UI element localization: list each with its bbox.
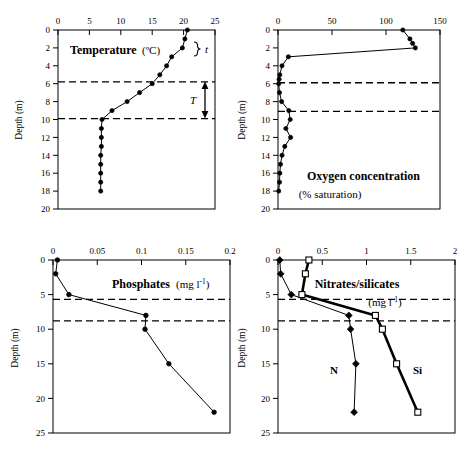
data-point xyxy=(288,117,292,121)
x-tick-label: 5 xyxy=(87,16,92,26)
x-axis-ticks xyxy=(278,30,440,35)
y-axis-title: Depth (m) xyxy=(237,328,248,367)
y-axis-tick-labels: 0 2 4 6 8 10 12 14 16 18 20 xyxy=(41,25,51,214)
y-tick-label: 12 xyxy=(261,133,270,143)
x-axis-tick-labels: 0 0.5 1 1.5 2 xyxy=(276,246,458,256)
y-tick-label: 14 xyxy=(41,151,51,161)
x-tick-label: 0 xyxy=(56,16,61,26)
y-tick-label: 8 xyxy=(46,97,51,107)
x-tick-label: 1.5 xyxy=(405,246,417,256)
data-point xyxy=(277,91,281,95)
oxygen-curve xyxy=(279,30,416,191)
data-point xyxy=(99,126,103,130)
data-point xyxy=(180,46,184,50)
y-axis-ticks xyxy=(273,260,278,433)
y-tick-label: 10 xyxy=(261,324,271,334)
data-point xyxy=(284,126,288,130)
x-tick-label: 0.05 xyxy=(89,246,105,256)
panel-title: Oxygen concentration xyxy=(307,169,420,183)
y-axis-tick-labels: 0 2 4 6 8 10 12 14 16 18 20 xyxy=(261,25,271,214)
data-point xyxy=(276,257,283,264)
panel-units: (mg l-1) xyxy=(368,295,402,310)
data-point xyxy=(394,361,400,367)
x-axis-ticks xyxy=(278,260,455,265)
data-point xyxy=(277,189,281,193)
y-tick-label: 0 xyxy=(266,255,271,265)
x-tick-label: 0.1 xyxy=(136,246,147,256)
data-point xyxy=(55,258,60,263)
data-point xyxy=(170,55,174,59)
data-point xyxy=(99,162,103,166)
x-axis-tick-labels: 0 50 100 150 xyxy=(276,16,448,26)
panel-units: (mg l-1) xyxy=(176,277,210,292)
data-point xyxy=(99,171,103,175)
data-point xyxy=(212,410,217,415)
panel-title: Temperature xyxy=(70,43,137,57)
phosphates-chart: 0 0.05 0.1 0.15 0.2 0 5 10 15 20 25 xyxy=(0,226,235,451)
data-point xyxy=(278,171,282,175)
data-point xyxy=(302,271,308,277)
y-axis-tick-labels: 0 5 10 15 20 25 xyxy=(36,255,46,438)
data-point xyxy=(53,272,58,277)
y-tick-label: 14 xyxy=(261,151,271,161)
panel-nitrates-silicates: 0 0.5 1 1.5 2 0 5 10 15 20 25 xyxy=(235,226,470,451)
data-point xyxy=(372,312,378,318)
data-point xyxy=(280,153,284,157)
data-point xyxy=(413,46,417,50)
oxygen-chart: 0 50 100 150 0 2 4 xyxy=(235,0,470,226)
y-tick-label: 10 xyxy=(41,115,51,125)
data-point xyxy=(287,109,291,113)
x-tick-label: 0 xyxy=(276,246,281,256)
y-tick-label: 16 xyxy=(261,168,271,178)
x-axis-ticks xyxy=(53,260,230,265)
y-axis-ticks xyxy=(53,30,58,209)
y-tick-label: 10 xyxy=(36,324,46,334)
x-axis-ticks xyxy=(58,30,215,35)
panel-oxygen: 0 50 100 150 0 2 4 xyxy=(235,0,470,226)
y-tick-label: 0 xyxy=(46,25,51,35)
data-point xyxy=(345,312,352,319)
multi-panel-depth-profile-figure: 0 5 10 15 20 25 0 xyxy=(0,0,470,451)
y-tick-label: 15 xyxy=(36,359,46,369)
x-tick-label: 2 xyxy=(453,246,458,256)
data-point xyxy=(411,41,415,45)
y-tick-label: 10 xyxy=(261,115,271,125)
data-point xyxy=(306,257,312,263)
y-tick-label: 20 xyxy=(41,204,51,214)
x-tick-label: 100 xyxy=(379,16,393,26)
data-point xyxy=(280,64,284,68)
y-tick-label: 4 xyxy=(46,61,51,71)
x-tick-label: 0.5 xyxy=(317,246,329,256)
data-point xyxy=(167,362,172,367)
x-tick-label: 15 xyxy=(148,16,158,26)
data-point xyxy=(158,73,162,77)
thermocline-upper-brace-icon xyxy=(194,42,201,56)
data-point xyxy=(415,409,421,415)
panel-units: (% saturation) xyxy=(299,188,362,201)
thermocline-upper-label: t xyxy=(205,43,209,55)
y-tick-label: 2 xyxy=(46,43,51,53)
y-tick-label: 5 xyxy=(41,290,46,300)
panel-title: Phosphates xyxy=(112,277,170,291)
data-point xyxy=(138,91,142,95)
data-point xyxy=(278,73,282,77)
data-point xyxy=(277,180,281,184)
y-axis-ticks xyxy=(48,260,53,433)
data-point xyxy=(277,82,281,86)
thermocline-range-arrow-icon xyxy=(202,82,209,119)
data-point xyxy=(289,135,293,139)
panel-phosphates: 0 0.05 0.1 0.15 0.2 0 5 10 15 20 25 xyxy=(0,226,235,451)
y-tick-label: 16 xyxy=(41,168,51,178)
data-point xyxy=(277,77,281,81)
panel-units: (ºC) xyxy=(142,44,160,57)
data-point xyxy=(347,326,354,333)
data-point xyxy=(288,291,295,298)
data-point xyxy=(353,360,360,367)
y-tick-label: 8 xyxy=(266,97,271,107)
x-tick-label: 0.2 xyxy=(224,246,235,256)
x-tick-label: 20 xyxy=(179,16,189,26)
y-axis-tick-labels: 0 5 10 15 20 25 xyxy=(261,255,271,438)
panel-title: Nitrates/silicates xyxy=(315,277,400,291)
series-label-silicates: Si xyxy=(413,364,422,376)
data-point xyxy=(144,313,149,318)
